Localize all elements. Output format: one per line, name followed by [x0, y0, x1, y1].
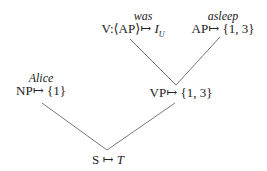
label-s: S ↦ T	[80, 153, 136, 167]
node-s: S ↦ T	[80, 153, 136, 167]
node-vp: VP↦ {1, 3}	[136, 86, 226, 100]
edge-vp-s	[107, 103, 175, 150]
node-np: Alice NP↦ {1}	[6, 72, 76, 98]
node-v: was V:⟨AP⟩↦ IU	[88, 10, 178, 42]
edge-ap-vp	[176, 37, 220, 85]
edge-np-s	[42, 103, 107, 150]
edge-v-vp	[130, 39, 176, 85]
label-vp: VP↦ {1, 3}	[136, 86, 226, 100]
node-ap: asleep AP↦ {1, 3}	[188, 10, 258, 36]
maps-to-icon: ↦	[103, 152, 114, 167]
label-np: NP↦ {1}	[6, 84, 76, 98]
label-ap: AP↦ {1, 3}	[188, 22, 258, 36]
label-v: V:⟨AP⟩↦ IU	[88, 22, 178, 42]
maps-to-icon: ↦	[166, 85, 177, 100]
maps-to-icon: ↦	[208, 21, 219, 36]
maps-to-icon: ↦	[33, 83, 44, 98]
maps-to-icon: ↦	[140, 21, 151, 36]
